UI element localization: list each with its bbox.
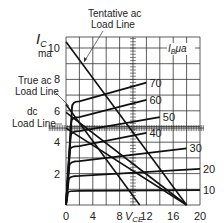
curve-label-20: 20 [203, 163, 215, 175]
x-tick-4: 4 [90, 210, 96, 222]
curve-label-50: 50 [163, 111, 175, 123]
x-tick-16: 16 [167, 210, 179, 222]
load-lines [66, 42, 187, 205]
curve-labels: 10203040506070 [149, 77, 215, 197]
curve-label-70: 70 [149, 77, 161, 89]
tentative-ac-label-2: Load Line [91, 19, 135, 30]
dc-label-1: dc [27, 106, 38, 117]
transistor-characteristics-chart: 048121620246810 IC ma VCE IBμa Tentative… [0, 0, 224, 223]
load-line-0 [66, 42, 187, 205]
y-tick-2: 2 [54, 168, 60, 180]
true-ac-label-2: Load Line [15, 86, 59, 97]
x-tick-20: 20 [194, 210, 206, 222]
y-axis-unit: ma [38, 48, 52, 59]
y-tick-8: 8 [54, 73, 60, 85]
y-axis-label: IC [36, 30, 47, 49]
dc-label-2: Load Line [12, 118, 56, 129]
x-tick-0: 0 [63, 210, 69, 222]
curve-label-40: 40 [149, 127, 161, 139]
y-tick-4: 4 [54, 136, 60, 148]
curve-label-10: 10 [203, 184, 215, 196]
y-tick-6: 6 [54, 105, 60, 117]
tentative-ac-label-1: Tentative ac [88, 8, 141, 19]
x-tick-8: 8 [117, 210, 123, 222]
curve-label-60: 60 [149, 94, 161, 106]
ib-curve-30 [66, 148, 187, 205]
load-line-2 [66, 128, 187, 205]
curve-label-30: 30 [190, 142, 202, 154]
tentative-ac-leader [84, 31, 103, 62]
true-ac-label-1: True ac [18, 75, 52, 86]
